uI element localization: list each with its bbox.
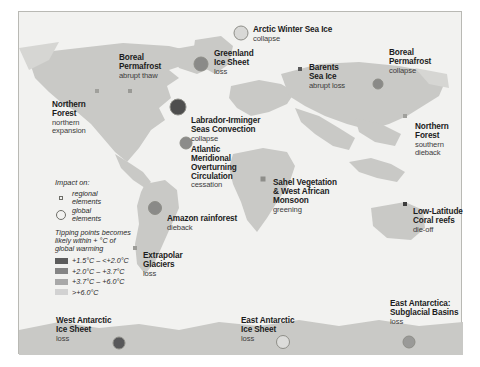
label-subtitle-line: die-off bbox=[413, 226, 463, 234]
label-subtitle-line: abrupt thaw bbox=[119, 72, 161, 80]
climate-tipping-points-map: Arctic Winter Sea IcecollapseBorealPerma… bbox=[0, 0, 480, 367]
label-subtitle-line: dieback bbox=[167, 224, 237, 232]
legend-temp-color-chip bbox=[55, 268, 68, 274]
label-boreal-permafrost-abrupt-thaw: BorealPermafrostabrupt thaw bbox=[119, 54, 161, 80]
label-northern-forest-northern-expansion: NorthernForestnorthernexpansion bbox=[52, 101, 86, 135]
legend-temperature-heading: Tipping points becomes likely within + °… bbox=[55, 229, 167, 253]
marker-boreal-permafrost-abrupt-thaw[interactable] bbox=[128, 89, 132, 93]
marker-greenland-ice-sheet[interactable] bbox=[194, 57, 209, 72]
label-greenland-ice-sheet: GreenlandIce Sheetloss bbox=[214, 50, 254, 76]
label-subtitle-line: abrupt loss bbox=[309, 82, 345, 90]
label-amazon-rainforest: Amazon rainforestdieback bbox=[167, 215, 237, 232]
legend-temp-band-row: +2.0°C – +3.7°C bbox=[55, 267, 167, 276]
legend-temp-band-label: +1.5°C – <+2.0°C bbox=[72, 256, 129, 265]
marker-west-antarctic-ice-sheet[interactable] bbox=[113, 337, 126, 350]
legend-temp-heading-line3: global warming bbox=[55, 244, 103, 253]
label-barents-sea-ice: BarentsSea Iceabrupt loss bbox=[309, 64, 345, 90]
label-boreal-permafrost-collapse: BorealPermafrostcollapse bbox=[389, 49, 431, 75]
legend-item-regional: regional elements bbox=[55, 190, 167, 205]
marker-northern-forest-northern-expansion[interactable] bbox=[95, 89, 99, 93]
legend-temp-band-label: >+6.0°C bbox=[72, 288, 98, 297]
label-northern-forest-southern-dieback: NorthernForestsoutherndieback bbox=[415, 123, 449, 157]
marker-northern-forest-southern-dieback[interactable] bbox=[403, 114, 407, 118]
marker-boreal-permafrost-collapse[interactable] bbox=[373, 79, 384, 90]
legend-temp-color-chip bbox=[55, 258, 68, 264]
marker-labrador-irminger-seas-convection[interactable] bbox=[170, 99, 187, 116]
legend-temp-color-chip bbox=[55, 289, 68, 295]
marker-barents-sea-ice[interactable] bbox=[298, 67, 302, 71]
label-subtitle-line: collapse bbox=[191, 135, 260, 143]
legend-temp-band-row: >+6.0°C bbox=[55, 288, 167, 297]
label-east-antarctica-subglacial-basins: East Antarctica:Subglacial Basinsloss bbox=[390, 300, 458, 326]
marker-low-latitude-coral-reefs[interactable] bbox=[403, 202, 407, 206]
legend-item-global: global elements bbox=[55, 207, 167, 222]
label-arctic-winter-sea-ice: Arctic Winter Sea Icecollapse bbox=[253, 26, 332, 43]
small-square-icon bbox=[55, 196, 67, 200]
map-legend: Impact on: regional elements global elem… bbox=[55, 178, 167, 298]
label-west-antarctic-ice-sheet: West AntarcticIce Sheetloss bbox=[56, 317, 111, 343]
label-subtitle-line: loss bbox=[56, 335, 111, 343]
label-east-antarctic-ice-sheet: East AntarcticIce Sheetloss bbox=[241, 317, 294, 343]
label-subtitle-line: collapse bbox=[253, 35, 332, 43]
label-subtitle-line: loss bbox=[390, 318, 458, 326]
label-subtitle-line: collapse bbox=[389, 67, 431, 75]
label-atlantic-meridional-overturning-circulation: AtlanticMeridionalOverturningCirculation… bbox=[191, 146, 237, 190]
legend-temperature-bands: +1.5°C – <+2.0°C+2.0°C – +3.7°C+3.7°C – … bbox=[55, 256, 167, 297]
label-subtitle-line: loss bbox=[241, 335, 294, 343]
legend-temp-color-chip bbox=[55, 279, 68, 285]
large-circle-icon bbox=[55, 210, 67, 220]
label-subtitle-line: greening bbox=[273, 206, 337, 214]
legend-global-text: global elements bbox=[72, 207, 101, 222]
legend-temp-band-label: +3.7°C – +6.0°C bbox=[72, 277, 125, 286]
label-subtitle-line: loss bbox=[214, 68, 254, 76]
legend-global-line2: elements bbox=[72, 214, 101, 223]
label-sahel-vegetation-west-african-monsoon: Sahel Vegetation& West AfricanMonsoongre… bbox=[273, 179, 337, 214]
legend-temp-band-row: +3.7°C – +6.0°C bbox=[55, 277, 167, 286]
map-canvas: Arctic Winter Sea IcecollapseBorealPerma… bbox=[18, 11, 462, 354]
legend-regional-line2: elements bbox=[72, 197, 101, 206]
label-subtitle-line: cessation bbox=[191, 181, 237, 189]
label-subtitle-line: expansion bbox=[52, 127, 86, 135]
marker-east-antarctica-subglacial-basins[interactable] bbox=[403, 336, 416, 349]
legend-regional-text: regional elements bbox=[72, 190, 101, 205]
legend-temp-band-row: +1.5°C – <+2.0°C bbox=[55, 256, 167, 265]
legend-temp-band-label: +2.0°C – +3.7°C bbox=[72, 267, 125, 276]
label-low-latitude-coral-reefs: Low-LatitudeCoral reefsdie-off bbox=[413, 208, 463, 234]
legend-impact-heading: Impact on: bbox=[55, 178, 167, 187]
label-labrador-irminger-seas-convection: Labrador-IrmingerSeas Convectioncollapse bbox=[191, 117, 260, 143]
label-subtitle-line: dieback bbox=[415, 149, 449, 157]
marker-arctic-winter-sea-ice[interactable] bbox=[234, 26, 249, 41]
marker-sahel-vegetation-west-african-monsoon[interactable] bbox=[261, 177, 266, 182]
